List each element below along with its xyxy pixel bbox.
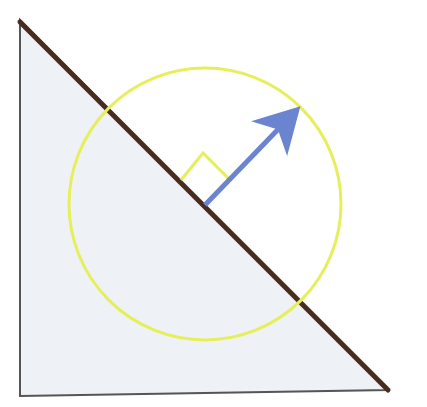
- right-angle-marker: [181, 153, 228, 180]
- diagram-canvas: [0, 0, 427, 407]
- normal-vector-arrow: [205, 117, 290, 205]
